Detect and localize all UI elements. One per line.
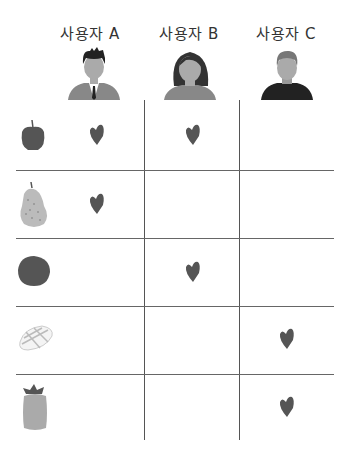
apple-icon xyxy=(18,118,48,154)
man-suit-avatar-icon xyxy=(66,46,122,100)
grid-divider-horizontal xyxy=(16,306,334,307)
heart-icon xyxy=(184,261,202,283)
heart-icon xyxy=(88,124,106,146)
woman-avatar-icon xyxy=(162,46,218,100)
grid-divider-horizontal xyxy=(16,374,334,375)
pear-icon xyxy=(18,180,50,230)
heart-icon xyxy=(278,328,296,350)
grid-divider-horizontal xyxy=(16,170,334,171)
heart-icon xyxy=(278,396,296,418)
user-b-label: 사용자 B xyxy=(144,22,234,43)
pineapple-icon xyxy=(20,384,50,434)
grid-divider-vertical xyxy=(239,100,240,440)
grid-divider-vertical xyxy=(144,100,145,440)
kiwi-icon xyxy=(16,254,52,288)
grid-divider-horizontal xyxy=(16,238,334,239)
heart-icon xyxy=(88,193,106,215)
user-a-label: 사용자 A xyxy=(45,22,135,43)
mango-icon xyxy=(18,324,54,352)
user-c-label: 사용자 C xyxy=(241,22,331,43)
heart-icon xyxy=(184,124,202,146)
man-sweater-avatar-icon xyxy=(259,46,315,100)
